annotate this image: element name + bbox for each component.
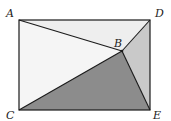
label-d: D [154,7,164,20]
label-a: A [5,7,14,20]
label-c: C [6,109,15,121]
label-b: B [113,37,122,50]
geometry-diagram: A D C E B [0,0,171,121]
label-e: E [152,109,161,121]
point-b [121,50,124,53]
